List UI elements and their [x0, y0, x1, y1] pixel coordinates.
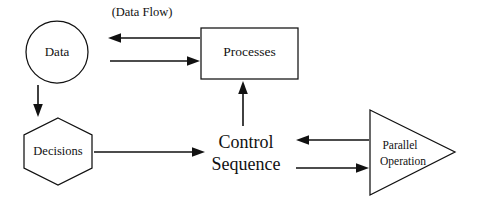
edge-processes-to-data — [108, 33, 200, 43]
edge-control-to-processes-arrowhead — [238, 81, 248, 94]
processes-label: Processes — [223, 44, 276, 59]
edge-control-to-parallel-arrowhead — [356, 163, 369, 173]
edge-control-to-processes — [238, 81, 248, 126]
edge-control-to-parallel — [296, 163, 369, 173]
node-processes[interactable]: Processes — [201, 28, 298, 79]
edge-processes-to-data-arrowhead — [108, 33, 121, 43]
edge-decisions-to-control-arrowhead — [192, 147, 205, 157]
edge-decisions-to-control — [94, 147, 205, 157]
data-flow-annotation-label: (Data Flow) — [112, 5, 173, 19]
node-parallel-operation[interactable]: Parallel Operation — [370, 110, 455, 195]
diagram-canvas: (Data Flow) Data Processes Decisions Con… — [0, 0, 477, 216]
edge-data-to-processes — [110, 56, 200, 66]
edge-data-to-decisions — [33, 85, 43, 117]
control-sequence-label-line2: Sequence — [212, 154, 281, 174]
edge-data-to-decisions-arrowhead — [33, 104, 43, 117]
edge-parallel-to-control — [296, 135, 369, 145]
node-control-sequence[interactable]: Control Sequence — [212, 132, 281, 174]
control-sequence-label-line1: Control — [218, 132, 273, 152]
edge-data-to-processes-arrowhead — [187, 56, 200, 66]
parallel-operation-triangle-shape — [370, 110, 455, 195]
parallel-operation-label-line1: Parallel — [382, 139, 417, 151]
edge-parallel-to-control-arrowhead — [296, 135, 309, 145]
parallel-operation-label-line2: Operation — [380, 155, 426, 168]
node-data[interactable]: Data — [26, 21, 88, 83]
flow-diagram: (Data Flow) Data Processes Decisions Con… — [0, 0, 477, 216]
node-decisions[interactable]: Decisions — [24, 118, 92, 185]
data-label: Data — [45, 44, 70, 59]
decisions-label: Decisions — [33, 144, 82, 158]
